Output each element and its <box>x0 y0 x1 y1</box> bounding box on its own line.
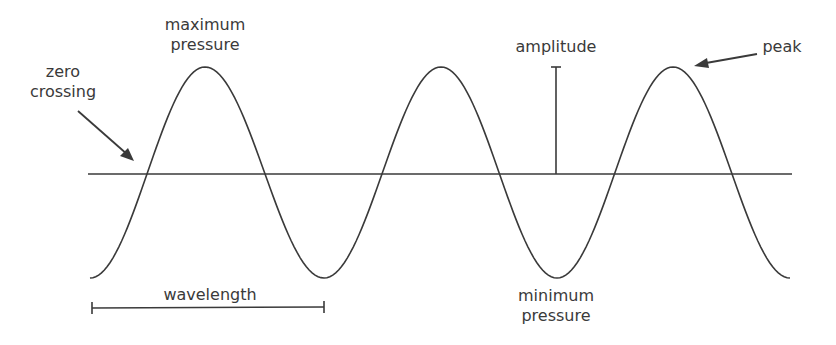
wavelength-label: wavelength <box>150 285 270 305</box>
maximum-pressure-line1: maximum <box>150 15 260 35</box>
zero-crossing-arrow-icon <box>78 111 134 161</box>
sine-wave <box>90 67 790 278</box>
peak-label: peak <box>757 37 807 57</box>
amplitude-label: amplitude <box>500 37 612 57</box>
zero-crossing-line2: crossing <box>18 82 108 102</box>
sound-wave-diagram: maximum pressure zero crossing amplitude… <box>0 0 836 345</box>
peak-arrow-icon <box>694 54 757 68</box>
maximum-pressure-line2: pressure <box>150 35 260 55</box>
minimum-pressure-line1: minimum <box>500 286 612 306</box>
zero-crossing-line1: zero <box>18 62 108 82</box>
zero-crossing-label: zero crossing <box>18 62 108 102</box>
minimum-pressure-line2: pressure <box>500 306 612 326</box>
amplitude-marker <box>551 67 561 174</box>
minimum-pressure-label: minimum pressure <box>500 286 612 326</box>
wave-graphic <box>0 0 836 345</box>
maximum-pressure-label: maximum pressure <box>150 15 260 55</box>
